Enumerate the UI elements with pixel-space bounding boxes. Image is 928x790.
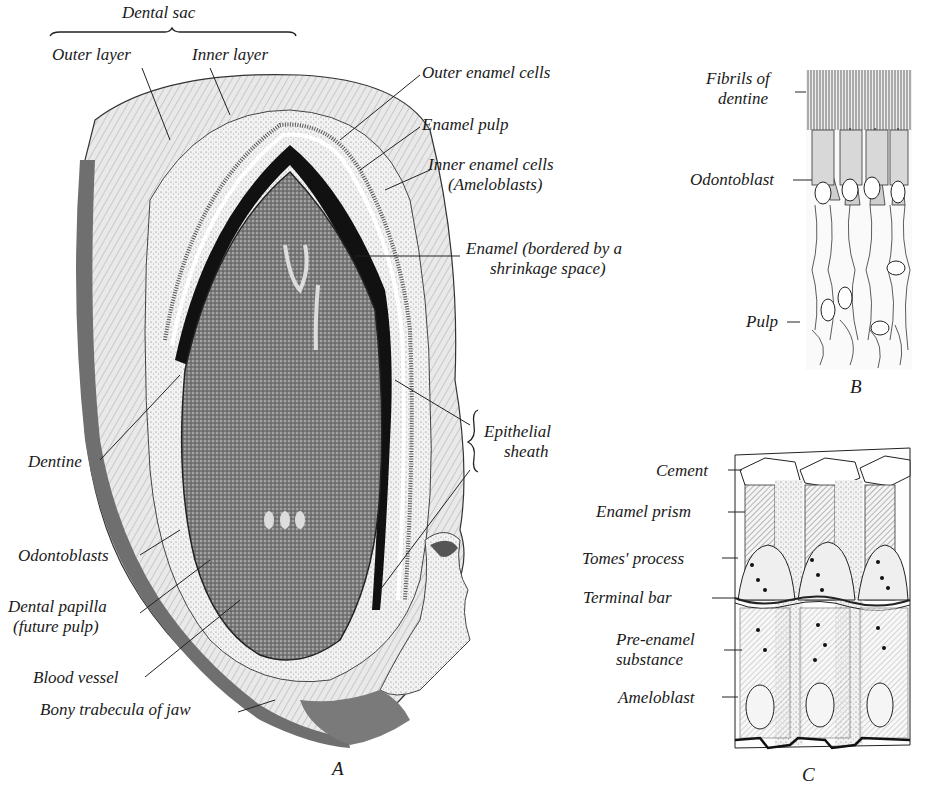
panel-c-letter: C [802, 764, 815, 786]
outer-layer-label: Outer layer [52, 45, 131, 64]
outer-enamel-cells-label: Outer enamel cells [422, 63, 550, 82]
enamel-pulp-label: Enamel pulp [422, 115, 508, 134]
pulp-label: Pulp [746, 312, 778, 331]
inner-layer-label: Inner layer [192, 45, 268, 64]
tomes-process-label: Tomes' process [582, 549, 684, 568]
pre-enamel-label: Pre-enamel [616, 630, 695, 649]
sheath-label: sheath [504, 442, 548, 461]
epithelial-label: Epithelial [484, 422, 551, 441]
ameloblast-label: Ameloblast [618, 688, 695, 707]
shrinkage-space-label: shrinkage space) [490, 259, 606, 278]
dental-sac-label: Dental sac [122, 3, 195, 22]
dentine-b-label: dentine [718, 89, 768, 108]
fibrils-of-label: Fibrils of [706, 69, 770, 88]
enamel-label: Enamel (bordered by a [466, 239, 622, 258]
ameloblasts-label: (Ameloblasts) [448, 175, 542, 194]
cement-label: Cement [656, 461, 708, 480]
dentine-label: Dentine [28, 452, 82, 471]
dental-papilla-label: Dental papilla [8, 597, 107, 616]
terminal-bar-label: Terminal bar [583, 588, 672, 607]
bony-trabecula-label: Bony trabecula of jaw [40, 700, 191, 719]
panel-b-letter: B [850, 376, 862, 398]
substance-label: substance [616, 650, 683, 669]
enamel-prism-panel-drawing [735, 448, 910, 748]
blood-vessel-label: Blood vessel [33, 668, 118, 687]
enamel-prism-label: Enamel prism [596, 502, 691, 521]
inner-enamel-cells-label: Inner enamel cells [428, 155, 554, 174]
odontoblast-label: Odontoblast [690, 170, 774, 189]
odontoblasts-label: Odontoblasts [18, 546, 109, 565]
epithelial-sheath-brace [468, 410, 478, 472]
future-pulp-label: (future pulp) [13, 617, 99, 636]
dental-sac-brace [50, 28, 296, 36]
panel-a-letter: A [332, 758, 344, 780]
tooth-germ-section [76, 75, 470, 748]
odontoblast-panel-drawing [806, 70, 912, 370]
